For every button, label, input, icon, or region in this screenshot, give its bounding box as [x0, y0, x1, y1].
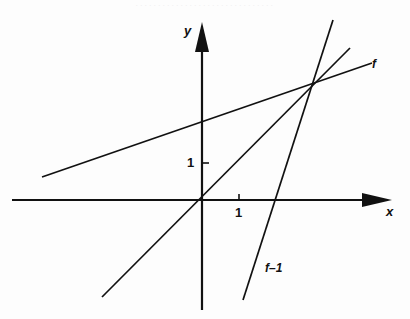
- y-axis: [195, 22, 209, 310]
- curve-f: [42, 63, 372, 177]
- curve-label-f-inverse: f–1: [265, 262, 282, 274]
- y-axis-label: y: [184, 24, 191, 37]
- curve-label-f: f: [372, 58, 376, 70]
- curve-f-inverse: [243, 20, 333, 300]
- y-axis-arrow-icon: [195, 22, 209, 52]
- function-inverse-diagram: ······························· y x 1 1 …: [0, 0, 410, 319]
- x-axis-label: x: [386, 205, 393, 218]
- x-tick-label-1: 1: [235, 206, 242, 219]
- diagram-canvas: [0, 0, 410, 319]
- y-tick-label-1: 1: [187, 156, 194, 169]
